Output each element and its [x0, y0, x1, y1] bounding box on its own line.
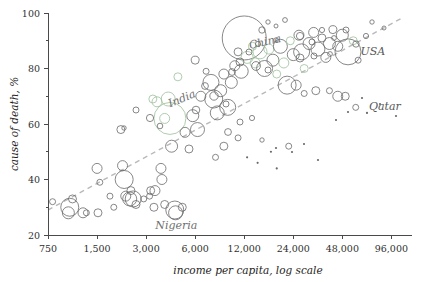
data-point-bubble	[260, 138, 264, 142]
country-label-qatar: Qatar	[369, 100, 402, 113]
data-point-bubble	[286, 143, 292, 149]
data-point-bubble	[329, 26, 337, 34]
data-point-bubble	[150, 203, 158, 211]
y-tick-label: 40	[28, 174, 40, 185]
data-point-bubble	[160, 113, 170, 123]
data-point-dot	[361, 97, 363, 99]
data-point-bubble	[278, 76, 296, 94]
data-point-bubble	[326, 88, 332, 94]
data-point-bubble	[249, 115, 254, 120]
y-axis-title: cause of death, %	[8, 77, 20, 171]
data-point-bubble	[203, 68, 209, 74]
data-point-bubble	[210, 92, 218, 100]
data-point-bubble	[273, 70, 281, 78]
data-point-bubble	[213, 154, 219, 160]
data-point-bubble	[312, 87, 320, 95]
data-point-bubble	[220, 142, 228, 150]
data-point-bubble	[191, 56, 199, 64]
data-point-bubble	[296, 54, 304, 62]
data-point-bubble	[321, 52, 331, 62]
country-label-china: China	[248, 32, 283, 52]
data-point-bubble	[156, 163, 166, 173]
data-point-dot	[395, 115, 397, 117]
data-point-bubble	[107, 193, 113, 199]
data-point-bubble	[283, 18, 288, 23]
data-point-bubble	[234, 48, 242, 56]
data-point-bubble	[266, 20, 270, 24]
data-point-bubble	[301, 90, 307, 96]
x-tick-label: 3,000	[133, 243, 160, 254]
x-tick-label: 48,000	[326, 243, 359, 254]
data-point-dot	[291, 151, 293, 153]
data-point-bubble	[94, 209, 102, 217]
data-point-bubble	[234, 64, 248, 78]
data-point-bubble	[50, 199, 56, 205]
data-point-bubble	[336, 29, 348, 41]
data-point-bubble	[319, 27, 324, 32]
y-tick-label: 60	[28, 119, 40, 130]
data-point-bubble	[166, 140, 178, 152]
y-tick-label: 20	[28, 230, 40, 241]
data-point-bubble	[225, 129, 232, 136]
data-point-bubble	[133, 107, 139, 113]
x-axis-title: income per capita, log scale	[173, 264, 322, 276]
data-point-bubble	[296, 32, 303, 39]
data-point-dot	[246, 156, 248, 158]
data-point-bubble	[370, 20, 374, 24]
data-point-bubble	[309, 39, 315, 45]
data-point-bubble	[333, 41, 343, 51]
x-tick-label: 12,000	[228, 243, 261, 254]
data-point-bubble	[190, 123, 204, 137]
data-point-bubble	[265, 67, 271, 73]
data-point-bubble	[318, 34, 326, 42]
data-point-dot	[335, 119, 337, 121]
data-point-bubble	[115, 171, 133, 189]
x-tick-label: 1,500	[83, 243, 110, 254]
x-tick-label: 750	[39, 243, 57, 254]
data-point-dot	[317, 159, 319, 161]
plot-canvas: 204060801007501,5003,0006,00012,00024,00…	[0, 0, 424, 282]
data-point-bubble	[196, 91, 206, 101]
data-point-bubble	[309, 27, 319, 37]
data-point-dot	[275, 147, 277, 149]
data-point-bubble	[62, 207, 74, 219]
data-point-bubble	[237, 119, 243, 125]
x-tick-label: 6,000	[182, 243, 209, 254]
data-point-bubble	[169, 206, 183, 220]
bubble-chart-figure: 204060801007501,5003,0006,00012,00024,00…	[0, 0, 424, 282]
data-point-bubble	[235, 135, 241, 141]
data-point-bubble	[311, 42, 325, 56]
data-point-bubble	[279, 58, 289, 68]
data-point-bubble	[185, 145, 193, 153]
data-point-dot	[303, 143, 305, 145]
x-tick-label: 96,000	[375, 243, 408, 254]
data-point-bubble	[286, 37, 294, 45]
x-tick-label: 24,000	[277, 243, 310, 254]
data-point-bubble	[111, 204, 117, 210]
data-point-bubble	[157, 175, 167, 185]
data-point-bubble	[259, 27, 265, 33]
y-tick-label: 100	[22, 8, 40, 19]
data-point-dot	[257, 162, 259, 164]
data-point-dot	[366, 112, 368, 114]
data-point-bubble	[223, 101, 229, 107]
data-point-bubble	[117, 126, 125, 134]
axes-group: 204060801007501,5003,0006,00012,00024,00…	[8, 8, 412, 277]
data-point-bubble	[141, 196, 147, 202]
country-label-nigeria: Nigeria	[154, 219, 197, 232]
data-point-dot	[270, 151, 272, 153]
data-point-bubble	[225, 76, 237, 88]
bubble-series-group	[50, 16, 398, 220]
data-point-bubble	[146, 114, 153, 121]
data-point-bubble	[125, 191, 141, 207]
data-point-bubble	[83, 210, 89, 216]
data-point-dot	[276, 167, 278, 169]
data-point-bubble	[267, 54, 279, 66]
data-point-bubble	[174, 73, 182, 81]
y-tick-label: 80	[28, 63, 40, 74]
data-point-bubble	[202, 83, 209, 90]
data-point-bubble	[353, 104, 359, 110]
data-point-bubble	[157, 123, 163, 129]
data-point-bubble	[274, 24, 278, 28]
data-point-bubble	[92, 163, 102, 173]
